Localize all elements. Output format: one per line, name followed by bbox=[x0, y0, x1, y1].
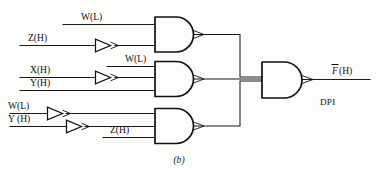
label-mid-w: W(L) bbox=[125, 53, 146, 65]
label-mid-x: X(H) bbox=[30, 64, 50, 76]
and-gate-output-body bbox=[262, 62, 302, 98]
and-gate-bottom-body bbox=[155, 109, 194, 144]
and-gate-middle bbox=[20, 62, 262, 97]
label-bot-w: W(L) bbox=[8, 100, 29, 112]
and-gate-middle-body bbox=[155, 62, 193, 97]
output-label-group: F (H) bbox=[331, 65, 352, 78]
and-gate-output bbox=[262, 62, 370, 98]
label-bot-y: Y (H) bbox=[8, 113, 30, 125]
logic-circuit-diagram: W(L) Z(H) W(L) X(H) Y(H) W(L) Y (H) Z(H)… bbox=[0, 0, 376, 174]
label-bot-z: Z(H) bbox=[110, 124, 129, 136]
label-mid-y: Y(H) bbox=[30, 77, 50, 89]
label-top-w: W(L) bbox=[81, 11, 102, 23]
circuit-svg: W(L) Z(H) W(L) X(H) Y(H) W(L) Y (H) Z(H)… bbox=[0, 0, 376, 174]
and-gate-top-body bbox=[155, 17, 194, 52]
wire-bot-to-output-gate bbox=[194, 81, 262, 126]
wire-top-to-output-gate bbox=[194, 35, 262, 78]
label-output-f-var: F bbox=[331, 65, 338, 76]
label-output-f-polarity: (H) bbox=[339, 65, 352, 77]
dpi-notation-label: DPI bbox=[320, 97, 335, 107]
label-top-z: Z(H) bbox=[28, 32, 47, 44]
figure-caption: (b) bbox=[173, 154, 184, 166]
and-gate-top bbox=[20, 17, 262, 77]
